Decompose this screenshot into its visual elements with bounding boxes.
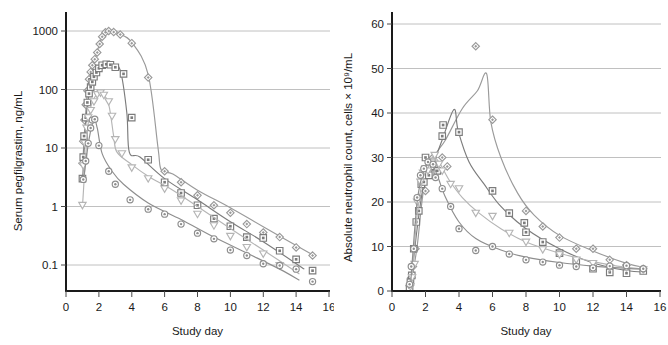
x-axis-title: Study day [500,325,551,337]
x-tick-label: 16 [654,301,667,313]
y-tick-label: 20 [371,196,384,208]
data-point-triangle [194,211,201,217]
data-point-square-core [442,124,445,127]
data-point-circle-core [575,265,577,267]
data-point-circle-core [89,127,91,129]
data-point-circle-core [87,142,89,144]
panel-serum-pegfilgrastim: 0.111010010000246810121416Study daySerum… [0,0,334,345]
axes [66,12,330,291]
y-axis-title: Absolute neutrophil count, cells × 10⁹/m… [342,52,354,262]
y-tick-label: 100 [39,84,58,96]
data-point-triangle [128,165,135,171]
x-axis-title: Study day [172,325,223,337]
data-point-circle-core [475,249,477,251]
x-tick-label: 4 [456,301,463,313]
x-tick-label: 10 [224,301,237,313]
y-tick-label: 1 [52,201,58,213]
data-point-circle-core [427,161,429,163]
data-point-circle-core [98,144,100,146]
data-point-circle-core [408,283,410,285]
data-point-circle-core [542,261,544,263]
data-point-square-core [89,86,92,89]
data-point-square-core [130,116,133,119]
data-point-circle-core [229,249,231,251]
data-point-square-core [525,231,528,234]
series-group [79,27,317,284]
data-point-square-core [122,73,125,76]
data-point-square-core [91,81,94,84]
data-point-circle-core [525,259,527,261]
data-point-square-core [147,158,150,161]
data-point-circle-core [129,199,131,201]
x-tick-label: 10 [553,301,566,313]
x-tick-label: 2 [422,301,428,313]
data-point-triangle [112,137,119,143]
data-point-square-core [229,225,232,228]
data-point-circle-core [108,170,110,172]
data-point-triangle [260,251,267,257]
data-point-triangle [105,99,112,105]
x-tick-label: 16 [323,301,334,313]
y-tick-label: 50 [371,63,384,75]
data-point-triangle [161,186,168,192]
x-tick-label: 14 [290,301,303,313]
data-point-circle-core [491,245,493,247]
data-point-triangle [108,113,115,119]
data-point-square-core [83,135,86,138]
data-point-triangle [489,213,496,219]
y-tick-label: 10 [371,241,384,253]
data-point-square-core [180,192,183,195]
data-point-circle-core [163,213,165,215]
data-point-circle-core [295,268,297,270]
data-point-circle-core [558,264,560,266]
data-point-triangle [177,198,184,204]
data-point-triangle [144,176,151,182]
panel-absolute-neutrophil-count: 01020304050600246810121416Study dayAbsol… [334,0,668,345]
data-point-square-core [508,212,511,215]
y-tick-label: 10 [45,142,58,154]
data-point-square-core [109,63,112,66]
data-point-square-core [311,269,314,272]
x-tick-label: 0 [389,301,395,313]
data-point-triangle [210,223,217,229]
y-tick-label: 40 [371,107,384,119]
data-point-circle-core [449,205,451,207]
data-point-circle-core [419,174,421,176]
x-tick-label: 6 [161,301,167,313]
data-point-square-core [295,258,298,261]
x-axis-ticks: 0246810121416 [63,291,334,313]
data-point-circle-core [508,253,510,255]
data-point-circle-core [311,280,313,282]
data-point-triangle [539,247,546,253]
data-point-square-core [163,181,166,184]
data-point-circle-core [262,263,264,265]
y-tick-label: 0 [378,285,384,297]
figure-container: 0.111010010000246810121416Study daySerum… [0,0,668,345]
data-point-circle-core [246,254,248,256]
data-point-circle-core [609,265,611,267]
data-point-circle-core [94,118,96,120]
y-axis-ticks: 0102030405060 [371,18,392,297]
data-point-square-core [441,135,444,138]
data-point-circle-core [147,208,149,210]
data-point-square-core [262,237,265,240]
data-point-square-core [424,156,427,159]
data-point-square-core [523,222,526,225]
data-point-square-core [245,236,248,239]
y-axis-ticks: 0.11101001000 [32,25,66,271]
data-point-triangle [472,210,479,216]
data-point-circle-core [85,160,87,162]
data-point-circle-core [441,187,443,189]
data-point-circle-core [642,268,644,270]
y-axis-title: Serum pegfilgrastim, ng/mL [12,90,24,231]
data-point-circle-core [413,248,415,250]
data-point-circle-core [180,223,182,225]
data-point-triangle [118,151,125,157]
data-point-square-core [458,131,461,134]
x-tick-label: 12 [257,301,270,313]
data-point-square-core [491,190,494,193]
y-tick-label: 60 [371,18,384,30]
series-group [406,43,647,291]
x-tick-label: 8 [194,301,200,313]
x-tick-label: 12 [587,301,600,313]
